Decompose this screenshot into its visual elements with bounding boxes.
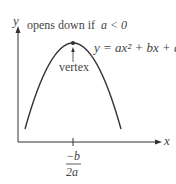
vertex-point: [71, 41, 75, 45]
tick-numerator: −b: [66, 149, 80, 164]
tick-denominator: 2a: [66, 165, 78, 180]
x-axis-label: x: [164, 133, 170, 149]
vertex-arrow-icon: [71, 47, 75, 52]
vertex-label: vertex: [59, 60, 89, 75]
x-axis-arrow-icon: [155, 140, 162, 145]
note-text: opens down if: [27, 18, 95, 32]
equation-label: y = ax² + bx + c: [94, 40, 176, 56]
y-axis-label: y: [13, 13, 19, 29]
opens-down-note: opens down if a < 0: [27, 18, 127, 33]
condition-text: a < 0: [101, 18, 127, 32]
